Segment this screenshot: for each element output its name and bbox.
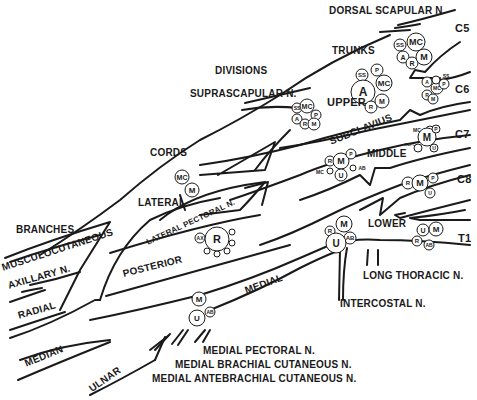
svg-text:P: P <box>314 112 318 118</box>
svg-text:A: A <box>295 116 300 122</box>
root-c6-label: C6 <box>455 83 469 95</box>
intercostal-label: INTERCOSTAL N. <box>340 298 426 309</box>
svg-text:A: A <box>400 54 405 61</box>
svg-text:M: M <box>431 96 435 102</box>
svg-text:R: R <box>406 180 411 186</box>
svg-text:SS: SS <box>396 42 404 48</box>
svg-text:M: M <box>416 178 424 188</box>
medial-brachial-cutaneous-label: MEDIAL BRACHIAL CUTANEOUS N. <box>175 359 352 370</box>
svg-text:M: M <box>379 98 385 105</box>
svg-text:U: U <box>428 190 432 196</box>
svg-text:M: M <box>423 132 431 143</box>
svg-text:MC: MC <box>316 169 324 175</box>
trunks-heading: TRUNKS <box>332 45 375 56</box>
lower-trunk-label: LOWER <box>368 218 406 229</box>
svg-text:M: M <box>196 295 203 304</box>
divisions-heading: DIVISIONS <box>215 65 267 76</box>
svg-text:AX: AX <box>197 235 205 241</box>
svg-text:A: A <box>425 79 429 85</box>
cords-heading: CORDS <box>150 147 187 158</box>
svg-text:U: U <box>420 227 425 234</box>
svg-text:M: M <box>420 52 428 62</box>
svg-text:AB: AB <box>206 309 214 315</box>
svg-text:R: R <box>213 233 221 245</box>
suprascapular-label: SUPRASCAPULAR N. <box>190 88 297 99</box>
svg-text:R: R <box>328 228 333 234</box>
brachial-plexus-diagram: SS MC A R M A MC P R M SS SS P A MC R M … <box>0 0 477 400</box>
svg-text:R: R <box>415 238 420 244</box>
svg-text:AB: AB <box>425 242 433 248</box>
svg-text:U: U <box>432 145 436 151</box>
svg-text:R: R <box>425 92 429 98</box>
svg-text:MC: MC <box>433 85 441 91</box>
svg-text:AB: AB <box>358 165 366 171</box>
svg-text:M: M <box>340 219 348 229</box>
root-c5-label: C5 <box>455 22 469 34</box>
upper-trunk-label: UPPER <box>327 96 366 108</box>
svg-text:R: R <box>369 104 374 110</box>
svg-text:R: R <box>303 121 308 127</box>
medial-antebrachial-cutaneous-label: MEDIAL ANTEBRACHIAL CUTANEOUS N. <box>152 373 356 384</box>
svg-text:U: U <box>194 314 200 323</box>
middle-trunk-label: MIDDLE <box>367 148 407 159</box>
root-t1-label: T1 <box>458 232 471 244</box>
svg-text:MC: MC <box>413 127 421 133</box>
svg-text:M: M <box>337 156 345 166</box>
medial-pectoral-label: MEDIAL PECTORAL N. <box>203 345 315 356</box>
svg-text:R: R <box>409 60 414 67</box>
svg-text:MC: MC <box>378 79 391 88</box>
branches-heading: BRANCHES <box>16 224 74 235</box>
svg-text:U: U <box>338 172 343 179</box>
svg-text:MC: MC <box>409 37 423 47</box>
svg-text:R: R <box>328 158 333 164</box>
svg-text:M: M <box>433 225 440 234</box>
long-thoracic-label: LONG THORACIC N. <box>363 270 463 281</box>
svg-text:U: U <box>332 238 339 249</box>
svg-text:SS: SS <box>294 105 301 111</box>
svg-text:MC: MC <box>177 174 188 181</box>
svg-text:SS: SS <box>443 73 450 79</box>
svg-text:M: M <box>312 121 317 127</box>
dorsal-scapular-label: DORSAL SCAPULAR N. <box>329 5 446 16</box>
plexus-line-drawing: SS MC A R M A MC P R M SS SS P A MC R M … <box>0 0 477 400</box>
svg-text:M: M <box>189 186 196 195</box>
svg-text:SS: SS <box>358 72 366 78</box>
svg-text:AB: AB <box>346 235 355 241</box>
root-c8-label: C8 <box>457 173 471 185</box>
svg-text:P: P <box>375 67 379 73</box>
lateral-cord-label: LATERAL <box>138 197 185 208</box>
root-c7-label: C7 <box>455 128 469 140</box>
svg-text:MC: MC <box>302 103 313 110</box>
svg-text:R+PC: R+PC <box>405 142 416 147</box>
